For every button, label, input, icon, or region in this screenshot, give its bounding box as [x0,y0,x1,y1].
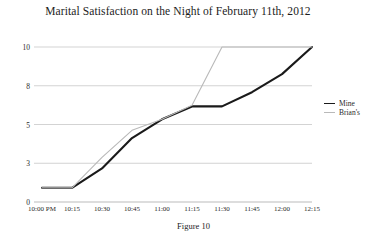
x-axis-tick-label: 11:45 [244,205,260,213]
series-lines [42,47,312,188]
y-axis-tick-label: 10 [8,43,30,52]
figure-caption: Figure 10 [0,221,387,231]
gridlines [34,47,312,202]
legend-line-icon [324,103,335,104]
legend-label: Brian's [339,108,360,117]
x-axis-tick-label: 12:15 [304,205,320,213]
x-axis-tick-label: 12:00 [274,205,290,213]
legend-item: Mine [324,99,360,108]
x-axis-tick-label: 11:00 [154,205,170,213]
x-axis-tick-label: 10:30 [94,205,110,213]
y-axis-tick-label: 3 [8,159,30,168]
legend-label: Mine [339,99,355,108]
x-axis-tick-label: 11:15 [184,205,200,213]
x-axis-tick-label: 11:30 [214,205,230,213]
y-axis-tick-label: 8 [8,81,30,90]
x-axis-tick-label: 10:45 [124,205,140,213]
chart-canvas [0,0,387,238]
x-axis-tick-label: 10:15 [64,205,80,213]
plot-area: 108530 10:00 PM10:1510:3010:4511:0011:15… [0,0,387,238]
series-line [42,47,312,188]
y-axis-tick-label: 0 [8,198,30,207]
y-axis-tick-label: 5 [8,120,30,129]
x-axis-tick-label: 10:00 PM [28,205,56,213]
chart-legend: MineBrian's [324,99,360,117]
legend-line-icon [324,112,335,113]
legend-item: Brian's [324,108,360,117]
figure-container: Marital Satisfaction on the Night of Feb… [0,0,387,238]
series-line [42,47,312,188]
